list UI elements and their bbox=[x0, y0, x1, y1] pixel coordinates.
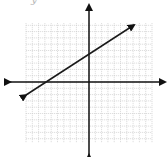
plotted-line bbox=[26, 25, 134, 95]
coordinate-plane bbox=[0, 0, 168, 157]
